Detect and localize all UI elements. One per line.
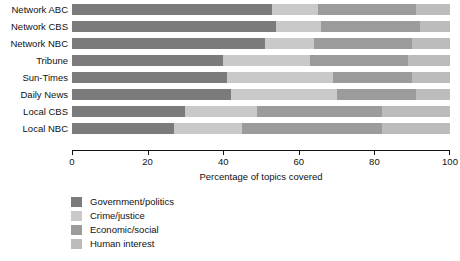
bar-row	[72, 21, 450, 32]
bar-row	[72, 72, 450, 83]
bar-segment	[408, 55, 450, 66]
bar-segment	[72, 106, 185, 117]
axis-tick-label: 100	[442, 156, 458, 167]
bar-row	[72, 106, 450, 117]
legend-swatch-icon	[71, 239, 82, 249]
bar-row	[72, 89, 450, 100]
bar-segment	[223, 55, 310, 66]
bar-segment	[416, 4, 450, 15]
legend-item: Government/politics	[71, 195, 174, 208]
category-label: Local NBC	[0, 123, 68, 134]
bar-segment	[333, 72, 412, 83]
plot-area	[72, 4, 450, 146]
category-label: Daily News	[0, 89, 68, 100]
legend-swatch-icon	[71, 225, 82, 235]
bar-segment	[310, 55, 408, 66]
legend-label: Government/politics	[90, 196, 174, 207]
stacked-bar-chart: Network ABCNetwork CBSNetwork NBCTribune…	[0, 0, 460, 261]
bar-segment	[227, 72, 333, 83]
bar-segment	[382, 106, 450, 117]
bar-segment	[321, 21, 419, 32]
bar-segment	[72, 4, 272, 15]
bar-segment	[72, 55, 223, 66]
bar-segment	[242, 123, 382, 134]
bar-segment	[72, 21, 276, 32]
axis-tick	[299, 150, 300, 155]
category-label: Sun-Times	[0, 72, 68, 83]
bar-segment	[412, 38, 450, 49]
bar-segment	[382, 123, 450, 134]
category-label: Network CBS	[0, 21, 68, 32]
bar-segment	[318, 4, 416, 15]
category-label: Network ABC	[0, 4, 68, 15]
bar-row	[72, 4, 450, 15]
x-axis-line	[72, 150, 450, 151]
bar-segment	[72, 72, 227, 83]
bar-segment	[185, 106, 257, 117]
bar-segment	[420, 21, 450, 32]
bar-row	[72, 123, 450, 134]
bar-segment	[337, 89, 416, 100]
x-axis-title: Percentage of topics covered	[72, 171, 450, 182]
legend-label: Crime/justice	[90, 210, 145, 221]
legend-item: Human interest	[71, 237, 174, 250]
bar-segment	[412, 72, 450, 83]
bar-segment	[257, 106, 382, 117]
legend-label: Economic/social	[90, 224, 159, 235]
category-label: Local CBS	[0, 106, 68, 117]
legend-label: Human interest	[90, 238, 154, 249]
chart-legend: Government/politicsCrime/justiceEconomic…	[71, 195, 174, 251]
bar-row	[72, 55, 450, 66]
axis-tick	[223, 150, 224, 155]
bar-segment	[416, 89, 450, 100]
legend-item: Crime/justice	[71, 209, 174, 222]
category-label: Network NBC	[0, 38, 68, 49]
axis-tick	[72, 150, 73, 155]
bar-segment	[272, 4, 317, 15]
bar-segment	[265, 38, 314, 49]
bar-segment	[231, 89, 337, 100]
bar-segment	[174, 123, 242, 134]
axis-tick	[449, 150, 450, 155]
axis-tick-label: 0	[69, 156, 74, 167]
axis-tick-label: 20	[142, 156, 153, 167]
legend-swatch-icon	[71, 197, 82, 207]
category-axis-labels: Network ABCNetwork CBSNetwork NBCTribune…	[0, 4, 68, 146]
axis-tick-label: 80	[369, 156, 380, 167]
axis-tick	[374, 150, 375, 155]
axis-tick-label: 40	[218, 156, 229, 167]
category-label: Tribune	[0, 55, 68, 66]
bar-segment	[72, 89, 231, 100]
legend-item: Economic/social	[71, 223, 174, 236]
bar-segment	[314, 38, 412, 49]
bar-row	[72, 38, 450, 49]
axis-tick-label: 60	[294, 156, 305, 167]
legend-swatch-icon	[71, 211, 82, 221]
axis-tick	[148, 150, 149, 155]
bar-segment	[72, 38, 265, 49]
bar-segment	[276, 21, 321, 32]
bar-segment	[72, 123, 174, 134]
